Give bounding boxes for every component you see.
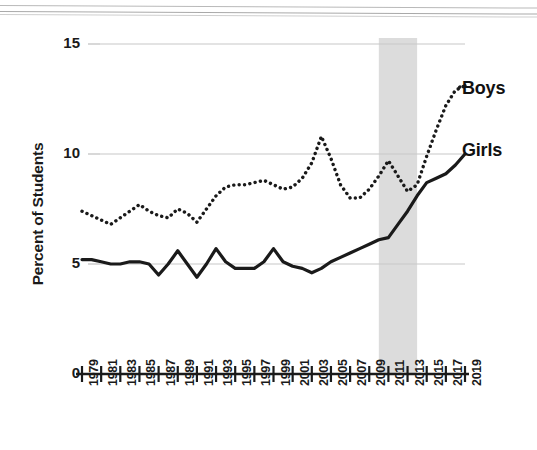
y-tick-label-0: 0 <box>46 364 80 381</box>
x-tick-label-1995: 1995 <box>240 359 254 386</box>
x-tick-label-2009: 2009 <box>374 359 388 386</box>
x-tick-label-1987: 1987 <box>164 359 178 386</box>
series-label-boys: Boys <box>462 78 505 99</box>
x-tick-label-2015: 2015 <box>432 359 446 386</box>
x-tick-label-1989: 1989 <box>183 359 197 386</box>
x-tick-label-2003: 2003 <box>317 359 331 386</box>
y-axis-title: Percent of Students <box>29 114 47 314</box>
x-tick-label-2011: 2011 <box>393 360 407 386</box>
x-tick-label-2007: 2007 <box>355 359 369 386</box>
x-tick-label-1981: 1981 <box>106 359 120 386</box>
x-tick-label-2005: 2005 <box>336 359 350 386</box>
x-tick-label-2013: 2013 <box>413 359 427 386</box>
chart-figure: Percent of Students 151050 1979198119831… <box>0 0 537 450</box>
x-tick-label-1997: 1997 <box>259 359 273 386</box>
x-tick-label-2001: 2001 <box>298 359 312 386</box>
x-tick-label-1991: 1991 <box>202 359 216 386</box>
y-tick-label-10: 10 <box>46 144 80 161</box>
x-tick-label-2019: 2019 <box>470 359 484 386</box>
x-tick-label-1993: 1993 <box>221 359 235 386</box>
x-tick-label-1985: 1985 <box>144 359 158 386</box>
series-label-girls: Girls <box>462 140 502 161</box>
y-tick-label-15: 15 <box>46 34 80 51</box>
y-tick-label-5: 5 <box>46 254 80 271</box>
x-tick-label-1999: 1999 <box>279 359 293 386</box>
x-tick-label-2017: 2017 <box>451 359 465 386</box>
x-tick-label-1983: 1983 <box>125 359 139 386</box>
x-tick-label-1979: 1979 <box>87 359 101 386</box>
